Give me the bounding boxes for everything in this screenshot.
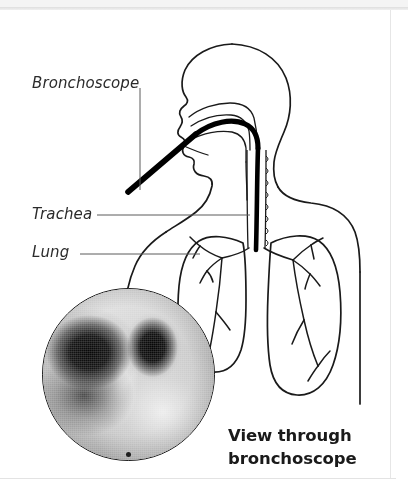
lung-right — [267, 236, 340, 395]
figure-page: Bronchoscope Trachea Lung View through b… — [0, 0, 408, 496]
leader-lines — [80, 88, 250, 254]
print-speck — [126, 452, 131, 457]
scope-external-shaft — [128, 134, 196, 192]
caption-line-2: bronchoscope — [228, 447, 357, 470]
caption-line-1: View through — [228, 424, 357, 447]
label-trachea: Trachea — [32, 205, 92, 223]
scope-tracheal-segment — [256, 148, 258, 250]
halftone-texture — [43, 289, 214, 460]
airway-outline — [184, 103, 257, 200]
label-bronchoscope: Bronchoscope — [32, 74, 139, 92]
label-lung: Lung — [32, 243, 69, 261]
scope-pharyngeal-curve — [196, 121, 258, 148]
bronchoscope-tube — [128, 121, 258, 250]
figure-caption: View through bronchoscope — [228, 424, 357, 471]
bronchoscopy-photo-inset — [42, 288, 215, 461]
